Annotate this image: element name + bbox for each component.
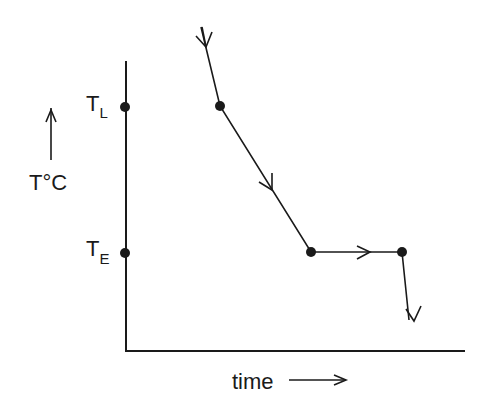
cooling-curve: [201, 27, 409, 320]
cooling-curve-diagram: T°C TL TE time: [0, 0, 498, 409]
point-eutectic-start: [306, 247, 316, 257]
point-liquidus: [215, 101, 225, 111]
tick-label-liquidus: TL: [86, 91, 108, 121]
y-axis-label: T°C: [29, 170, 67, 195]
point-eutectic-axis: [120, 248, 130, 258]
tick-label-eutectic: TE: [86, 236, 109, 267]
x-axis-arrow-icon: [289, 375, 346, 385]
x-axis-label: time: [232, 369, 274, 394]
point-liquidus-axis: [120, 102, 130, 112]
y-axis-arrow-icon: [46, 108, 56, 160]
point-eutectic-end: [397, 247, 407, 257]
